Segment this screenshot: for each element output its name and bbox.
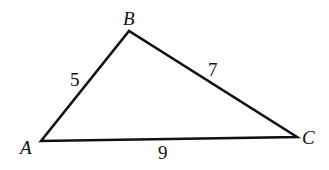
side-length-ab: 5 [70, 69, 80, 90]
vertex-label-b: B [123, 8, 135, 29]
triangle-diagram: A B C 5 7 9 [0, 0, 329, 170]
vertex-label-c: C [302, 127, 315, 148]
vertex-label-a: A [18, 137, 32, 158]
side-length-ac: 9 [158, 142, 168, 163]
side-length-bc: 7 [208, 59, 218, 80]
